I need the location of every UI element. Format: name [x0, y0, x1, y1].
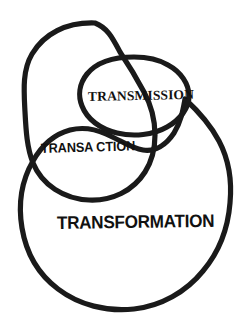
label-transformation: TRANSFORMATION	[57, 212, 214, 232]
label-transmission: TRANSMISSION	[88, 88, 194, 104]
set-ellipse-transaction	[24, 23, 155, 200]
label-transaction: TRANSA CTION	[41, 139, 136, 155]
venn-diagram: TRANSMISSION TRANSA CTION TRANSFORMATION	[0, 0, 247, 323]
set-ellipse-transformation	[20, 99, 230, 310]
venn-circles-group	[0, 0, 247, 323]
